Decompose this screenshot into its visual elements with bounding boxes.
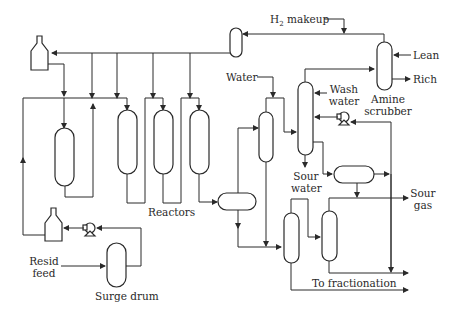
water-label: Water bbox=[226, 71, 258, 83]
wash-water-label: Washwater bbox=[328, 83, 360, 107]
lean-label: Lean bbox=[413, 49, 439, 61]
rich-label: Rich bbox=[413, 73, 437, 85]
reactor-2 bbox=[154, 110, 173, 174]
furnace-top bbox=[31, 36, 48, 70]
surge-drum bbox=[107, 243, 126, 287]
flash-vessel-upper bbox=[259, 112, 273, 162]
surge-drum-label: Surge drum bbox=[95, 290, 159, 302]
guard-reactor bbox=[55, 128, 74, 186]
h2-makeup-label: H2 makeup bbox=[270, 13, 329, 30]
reactors-label: Reactors bbox=[148, 206, 195, 218]
feed-pump bbox=[83, 223, 95, 236]
recycle-drum bbox=[230, 28, 242, 57]
wash-pump bbox=[337, 112, 349, 125]
sour-gas-label: Sourgas bbox=[410, 187, 436, 211]
cold-separator bbox=[298, 82, 313, 155]
hot-separator-drum bbox=[218, 193, 256, 210]
amine-scrubber bbox=[377, 42, 392, 90]
resid-feed-label: Residfeed bbox=[29, 255, 59, 279]
reactor-3 bbox=[190, 110, 209, 174]
to-fractionation-label: To fractionation bbox=[312, 277, 396, 289]
reactor-1 bbox=[118, 110, 137, 174]
flash-drum-2 bbox=[322, 211, 337, 261]
low-pressure-drum bbox=[334, 166, 374, 183]
amine-scrubber-label: Aminescrubber bbox=[363, 93, 413, 117]
flash-drum-1 bbox=[284, 213, 299, 263]
furnace-bottom bbox=[45, 208, 62, 241]
process-flow-diagram bbox=[0, 0, 453, 313]
sour-water-label: Sourwater bbox=[291, 170, 321, 194]
